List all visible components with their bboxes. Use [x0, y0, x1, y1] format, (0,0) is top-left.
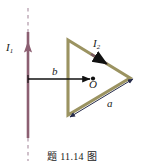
label-center-o: O: [89, 79, 97, 90]
physics-diagram-svg: [0, 0, 144, 168]
side-a-dimension-line: [70, 79, 133, 117]
figure-container: I1 I2 b O a 题 11.14 图: [0, 0, 144, 168]
label-current-i2: I2: [93, 38, 100, 50]
figure-caption: 题 11.14 图: [0, 148, 144, 163]
triangle-loop: [68, 40, 130, 115]
label-current-i1: I1: [6, 42, 13, 54]
label-side-a: a: [107, 98, 113, 109]
loop-current-arrow-icon: [91, 54, 107, 64]
label-distance-b: b: [52, 66, 58, 77]
